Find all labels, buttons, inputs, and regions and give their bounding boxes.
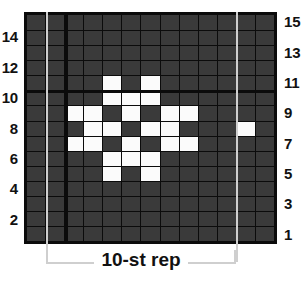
chart-cell <box>256 136 274 151</box>
chart-cell <box>218 181 237 196</box>
chart-cell <box>161 181 180 196</box>
chart-cell <box>256 15 274 30</box>
chart-cell <box>161 211 180 226</box>
chart-cell <box>237 181 256 196</box>
chart-cell <box>218 90 237 105</box>
chart-cell <box>218 121 237 136</box>
chart-cell <box>180 211 199 226</box>
repeat-label: 10-st rep <box>46 249 236 271</box>
chart-cell <box>27 226 46 241</box>
chart-cell <box>180 121 199 136</box>
chart-cell <box>65 45 84 60</box>
chart-cell <box>65 211 84 226</box>
chart-cell <box>256 211 274 226</box>
chart-cell <box>199 105 218 120</box>
chart-cell <box>27 151 46 166</box>
chart-cell <box>103 105 122 120</box>
chart-cell <box>103 196 122 211</box>
row-number-5: 5 <box>279 166 292 181</box>
chart-cell <box>27 105 46 120</box>
chart-cell <box>180 75 199 90</box>
chart-cell <box>27 90 46 105</box>
chart-cell <box>65 105 84 120</box>
chart-cell <box>27 121 46 136</box>
chart-cell <box>199 196 218 211</box>
chart-cell <box>27 211 46 226</box>
chart-cell <box>122 90 141 105</box>
chart-cell <box>122 45 141 60</box>
chart-cell <box>84 60 103 75</box>
chart-cell <box>122 121 141 136</box>
chart-cell <box>180 166 199 181</box>
row-number-spacer <box>14 45 22 60</box>
chart-row-7 <box>27 136 274 151</box>
chart-cell <box>27 45 46 60</box>
chart-cell <box>84 136 103 151</box>
row-number-13: 13 <box>279 45 300 60</box>
chart-cell <box>65 166 84 181</box>
row-number-15: 15 <box>279 14 300 29</box>
stitch-grid <box>27 15 274 241</box>
row-number-spacer <box>14 75 22 90</box>
chart-cell <box>46 151 65 166</box>
chart-cell <box>122 75 141 90</box>
chart-cell <box>65 90 84 105</box>
chart-cell <box>84 90 103 105</box>
chart-cell <box>27 30 46 45</box>
chart-cell <box>27 15 46 30</box>
chart-cell <box>180 196 199 211</box>
chart-row-13 <box>27 45 274 60</box>
chart-cell <box>199 75 218 90</box>
chart-cell <box>122 15 141 30</box>
chart-cell <box>141 226 160 241</box>
chart-cell <box>180 136 199 151</box>
chart-cell <box>218 45 237 60</box>
chart-cell <box>199 60 218 75</box>
chart-cell <box>122 211 141 226</box>
chart-row-9 <box>27 105 274 120</box>
chart-cell <box>256 196 274 211</box>
chart-cell <box>122 30 141 45</box>
chart-cell <box>27 60 46 75</box>
chart-cell <box>65 196 84 211</box>
chart-cell <box>122 136 141 151</box>
chart-cell <box>237 60 256 75</box>
chart-cell <box>161 136 180 151</box>
chart-cell <box>237 45 256 60</box>
chart-cell <box>84 30 103 45</box>
chart-cell <box>218 196 237 211</box>
chart-cell <box>180 30 199 45</box>
chart-cell <box>46 121 65 136</box>
chart-cell <box>218 75 237 90</box>
row-number-11: 11 <box>279 75 299 90</box>
chart-cell <box>103 136 122 151</box>
chart-cell <box>141 151 160 166</box>
row-numbers-left: 2 4 6 8 10 12 14 <box>0 14 22 242</box>
chart-cell <box>46 90 65 105</box>
chart-row-12 <box>27 60 274 75</box>
chart-cell <box>161 105 180 120</box>
chart-cell <box>141 15 160 30</box>
chart-cell <box>141 136 160 151</box>
chart-cell <box>237 211 256 226</box>
chart-cell <box>237 30 256 45</box>
chart-cell <box>237 136 256 151</box>
chart-row-15 <box>27 15 274 30</box>
row-number-spacer <box>14 227 22 242</box>
chart-cell <box>141 90 160 105</box>
row-number-10: 10 <box>2 90 22 105</box>
chart-cell <box>256 90 274 105</box>
chart-cell <box>161 226 180 241</box>
chart-cell <box>199 15 218 30</box>
chart-cell <box>103 45 122 60</box>
chart-row-4 <box>27 181 274 196</box>
chart-cell <box>141 196 160 211</box>
chart-cell <box>103 60 122 75</box>
chart-cell <box>218 136 237 151</box>
chart-cell <box>237 151 256 166</box>
chart-cell <box>46 45 65 60</box>
row-number-2: 2 <box>10 212 22 227</box>
row-number-spacer <box>14 136 22 151</box>
chart-cell <box>46 30 65 45</box>
chart-cell <box>84 121 103 136</box>
